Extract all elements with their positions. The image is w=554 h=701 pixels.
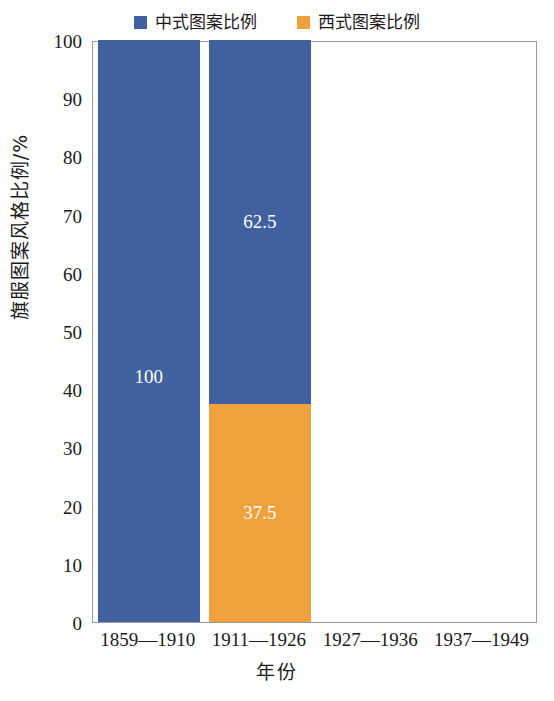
bar-segment-chinese[interactable]: 62.5 — [209, 40, 311, 404]
legend-label-chinese-pattern: 中式图案比例 — [155, 14, 257, 31]
y-axis-title: 旗服图案风格比例/% — [9, 102, 31, 352]
y-tick-label: 80 — [63, 148, 82, 167]
square-swatch-icon — [297, 16, 310, 29]
x-tick-label: 1911—1926 — [212, 630, 306, 650]
y-tick-label: 0 — [73, 614, 83, 633]
plot-area: 10037.562.5 — [92, 41, 537, 623]
x-tick-label: 1937—1949 — [434, 630, 529, 650]
y-tick-label: 90 — [63, 90, 82, 109]
y-tick-label: 40 — [63, 381, 82, 400]
square-swatch-icon — [134, 16, 147, 29]
chart-container: 中式图案比例 西式图案比例 旗服图案风格比例/% 010203040506070… — [0, 0, 554, 701]
x-axis-title: 年份 — [0, 662, 554, 682]
legend-label-western-pattern: 西式图案比例 — [318, 14, 420, 31]
bar-value-label: 62.5 — [243, 212, 276, 231]
bar-group[interactable]: 100 — [98, 40, 200, 622]
chart-legend: 中式图案比例 西式图案比例 — [0, 8, 554, 36]
bar-segment-chinese[interactable]: 100 — [98, 40, 200, 622]
bar-segment-western[interactable]: 37.5 — [209, 404, 311, 622]
x-tick-label: 1859—1910 — [100, 630, 195, 650]
legend-item-western-pattern[interactable]: 西式图案比例 — [297, 14, 420, 31]
bar-group[interactable]: 37.562.5 — [209, 40, 311, 622]
y-tick-label: 10 — [63, 555, 82, 574]
y-tick-label: 100 — [54, 32, 83, 51]
bar-value-label: 100 — [134, 367, 163, 386]
y-tick-label: 70 — [63, 206, 82, 225]
bar-group[interactable] — [431, 40, 533, 622]
y-tick-label: 30 — [63, 439, 82, 458]
y-tick-label: 50 — [63, 323, 82, 342]
bar-value-label: 37.5 — [243, 503, 276, 522]
legend-item-chinese-pattern[interactable]: 中式图案比例 — [134, 14, 257, 31]
x-tick-label: 1927—1936 — [323, 630, 418, 650]
y-tick-label: 60 — [63, 264, 82, 283]
bar-group[interactable] — [320, 40, 422, 622]
y-tick-label: 20 — [63, 497, 82, 516]
